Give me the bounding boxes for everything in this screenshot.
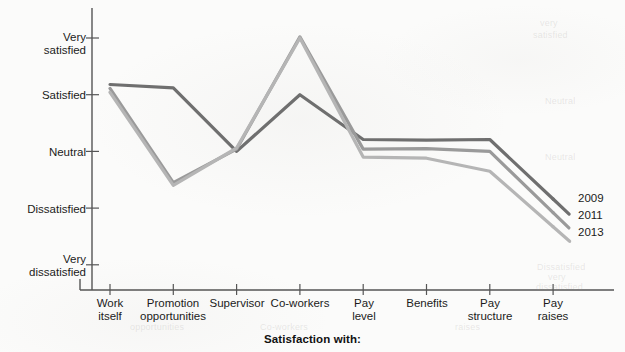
legend-leader-2009 xyxy=(553,199,569,214)
legend-item-2009: 2009 xyxy=(578,192,604,205)
ytick-label-satisfied: Satisfied xyxy=(42,89,86,102)
series-line-2011 xyxy=(110,37,553,213)
x-axis-title: Satisfaction with: xyxy=(0,333,625,345)
xtick-label-co-workers: Co-workers xyxy=(254,297,346,310)
legend-item-2011: 2011 xyxy=(578,209,603,222)
ytick-label-very-satisfied: Very satisfied xyxy=(44,31,86,56)
series-line-2013 xyxy=(110,38,553,227)
data-series-group xyxy=(110,37,570,241)
xtick-label-pay-level: Pay level xyxy=(334,297,394,323)
ytick-label-very-dissatisfied: Very dissatisfied xyxy=(29,253,86,278)
ytick-label-dissatisfied: Dissatisfied xyxy=(27,203,86,216)
ytick-label-neutral: Neutral xyxy=(49,146,86,159)
legend-item-2013: 2013 xyxy=(578,226,604,239)
legend-leader-2011 xyxy=(553,213,569,228)
xtick-label-pay-raises: Pay raises xyxy=(519,297,587,323)
legend-leader-2013 xyxy=(553,227,570,242)
line-chart: Very satisfied Satisfied Neutral Dissati… xyxy=(0,0,625,352)
